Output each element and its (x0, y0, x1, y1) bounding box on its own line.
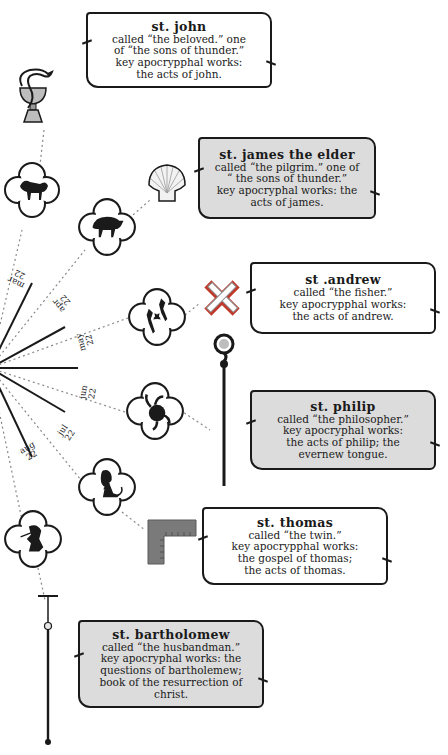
taurus-bull-icon (76, 196, 138, 258)
flaying-knife-icon (36, 594, 60, 750)
scroll-st-bartholomew: st. bartholomew called “the husbandman.”… (78, 620, 264, 708)
scroll-st-john: st. john called “the beloved.” one of “t… (86, 12, 272, 88)
scroll-st-thomas: st. thomas called “the twin.” key apocry… (202, 507, 388, 585)
apostle-name: st .andrew (260, 273, 426, 287)
scroll-st-philip: st. philip called “the philosopher.” key… (250, 390, 436, 470)
scallop-shell-icon (145, 163, 189, 203)
apostle-name: st. bartholomew (88, 628, 254, 642)
saltire-cross-icon (200, 276, 244, 320)
date-label-jun: jun22 (78, 385, 97, 401)
zodiac-apostles-diagram: mar22 apr22 may22 jun22 jul22 aug22 (0, 0, 448, 755)
leo-lion-icon (76, 456, 138, 518)
chalice-with-serpent-icon (12, 64, 54, 126)
apostle-name: st. james the elder (208, 148, 366, 162)
aries-ram-icon (2, 160, 62, 220)
scroll-st-james-the-elder: st. james the elder called “the pilgrim.… (198, 137, 376, 219)
apostle-name: st. thomas (212, 516, 378, 530)
apostle-name: st. philip (260, 400, 426, 414)
cancer-crab-icon (124, 380, 186, 442)
gemini-twins-icon (126, 286, 188, 348)
staff-cross-icon (210, 332, 238, 488)
virgo-maiden-icon (2, 508, 64, 570)
scroll-st-andrew: st .andrew called “the fisher.” key apoc… (250, 262, 436, 334)
carpenters-square-icon (146, 518, 198, 566)
apostle-name: st. john (96, 20, 262, 34)
